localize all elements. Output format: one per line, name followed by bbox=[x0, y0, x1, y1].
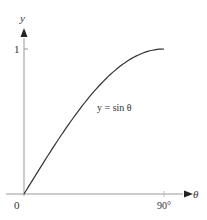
origin-label: 0 bbox=[14, 199, 20, 211]
x-axis-label: θ bbox=[193, 188, 199, 200]
y-tick-1-label: 1 bbox=[14, 43, 20, 55]
x-tick-90-label: 90° bbox=[157, 200, 171, 211]
sine-curve bbox=[24, 49, 164, 194]
sine-chart: y θ 0 90° 1 y = sin θ bbox=[0, 0, 207, 220]
y-axis-label: y bbox=[19, 12, 25, 24]
y-axis-arrow-icon bbox=[21, 28, 28, 37]
curve-label: y = sin θ bbox=[97, 102, 132, 113]
x-axis-arrow-icon bbox=[184, 191, 193, 198]
